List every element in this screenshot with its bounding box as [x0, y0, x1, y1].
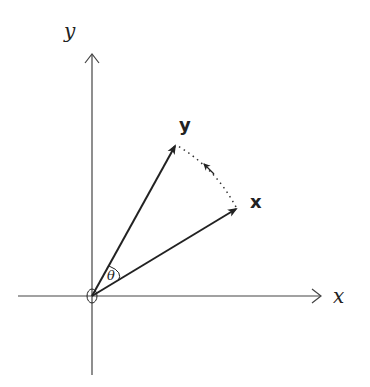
vector-y	[92, 146, 175, 296]
rotation-arc	[178, 146, 236, 207]
y-axis	[85, 54, 99, 375]
diagram-svg: y x y x θ	[0, 0, 370, 387]
vector-y-label: y	[179, 114, 191, 135]
y-axis-label: y	[63, 19, 76, 43]
vector-x-label: x	[250, 191, 262, 212]
x-axis-label: x	[333, 284, 344, 308]
rotation-diagram: y x y x θ	[0, 0, 370, 387]
x-axis	[18, 289, 321, 303]
rotation-direction-arrow-icon	[204, 164, 214, 174]
angle-theta-label: θ	[107, 268, 115, 283]
